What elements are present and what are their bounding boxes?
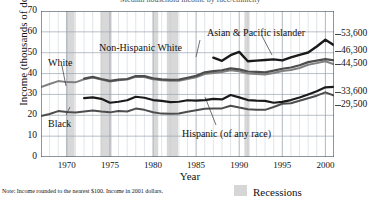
series-annotation: Non-Hispanic White (99, 42, 182, 53)
end-value-label: 33,600 (341, 86, 367, 96)
x-tick-label: 1995 (262, 160, 302, 170)
series-annotation: White (48, 57, 72, 68)
end-value-connector (335, 51, 341, 52)
x-tick-label: 1970 (47, 160, 87, 170)
end-value-connector (335, 34, 341, 35)
end-value-label: 29,500 (341, 99, 367, 109)
recession-band (153, 11, 158, 157)
y-tick-label: 50 (17, 47, 37, 57)
series-annotation: Hispanic (of any race) (182, 128, 271, 139)
end-value-label: 53,600 (341, 28, 367, 38)
legend-label-recessions: Recessions (253, 186, 302, 198)
chart-figure: Median household income by race/ethnicit… (0, 0, 378, 201)
series-annotation: Asian & Pacific islander (207, 27, 305, 38)
chart-note: Note: Income rounded to the nearest $100… (2, 188, 163, 194)
end-value-connector (335, 105, 341, 106)
legend-swatch-recessions (234, 185, 247, 196)
annotation-leader-line (62, 66, 66, 86)
y-tick-label: 40 (17, 68, 37, 78)
x-axis-title: Year (155, 170, 225, 182)
annotation-leader-line (205, 97, 216, 125)
end-value-label: 44,500 (341, 58, 367, 68)
chart-title: Median household income by race/ethnicit… (120, 0, 260, 4)
series-annotation: Black (48, 118, 71, 129)
recession-band (66, 11, 75, 157)
annotation-leader-line (262, 36, 272, 55)
recession-band (167, 11, 178, 157)
x-tick-label: 1975 (90, 160, 130, 170)
y-tick-label: 30 (17, 88, 37, 98)
x-tick-label: 1980 (133, 160, 173, 170)
y-tick-label: 20 (17, 109, 37, 119)
y-tick-label: 70 (17, 5, 37, 15)
y-tick-label: 10 (17, 130, 37, 140)
x-tick-label: 2000 (305, 160, 345, 170)
end-value-connector (335, 92, 341, 93)
series-line-non-hispanic-white (84, 59, 334, 81)
annotation-leader-line (196, 40, 200, 57)
x-tick-label: 1990 (219, 160, 259, 170)
y-tick-label: 60 (17, 26, 37, 36)
end-value-label: 46,300 (341, 45, 367, 55)
series-line-hispanic-of-any-race (84, 87, 334, 103)
y-tick-label: 0 (17, 151, 37, 161)
x-tick-label: 1985 (176, 160, 216, 170)
end-value-connector (335, 64, 341, 65)
